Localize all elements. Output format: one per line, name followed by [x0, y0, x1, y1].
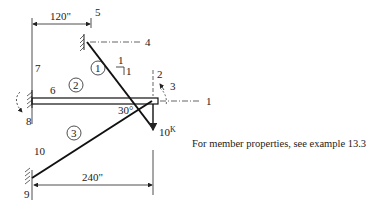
svg-text:6: 6	[50, 84, 56, 96]
svg-text:1: 1	[126, 65, 132, 77]
svg-text:7: 7	[35, 62, 41, 74]
dimension-top-label: 120"	[50, 10, 71, 22]
member-3	[32, 101, 152, 178]
svg-text:2: 2	[157, 68, 163, 80]
svg-text:1: 1	[206, 95, 212, 107]
svg-text:10: 10	[34, 145, 46, 157]
svg-text:4: 4	[145, 36, 151, 48]
svg-text:5: 5	[95, 6, 101, 18]
member-1-label: 1	[95, 62, 101, 74]
dimension-bottom-label: 240"	[82, 171, 103, 183]
svg-text:9: 9	[24, 188, 30, 200]
member-2-label: 2	[73, 79, 79, 91]
member-3-label: 3	[71, 127, 77, 139]
dimension-240: 240"	[34, 150, 153, 195]
structure-diagram: 120" 1 1 1 2 3 30° 240" 10K	[0, 0, 391, 210]
top-support	[80, 34, 140, 51]
svg-text:1: 1	[118, 54, 124, 66]
member-properties-note: For member properties, see example 13.3	[192, 138, 366, 149]
svg-text:8: 8	[26, 115, 32, 127]
load-label: 10K	[159, 125, 176, 138]
dimension-120: 120"	[32, 10, 91, 124]
svg-text:3: 3	[170, 80, 176, 92]
slope-triangle	[116, 67, 124, 75]
angle-label: 30°	[118, 104, 133, 116]
